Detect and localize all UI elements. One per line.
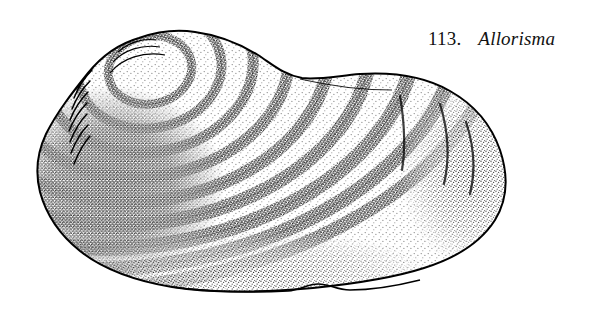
figure-container: 113.Allorisma	[0, 0, 595, 309]
figure-number: 113.	[428, 28, 461, 49]
taxon-name: Allorisma	[478, 28, 555, 49]
figure-caption: 113.Allorisma	[428, 28, 555, 50]
